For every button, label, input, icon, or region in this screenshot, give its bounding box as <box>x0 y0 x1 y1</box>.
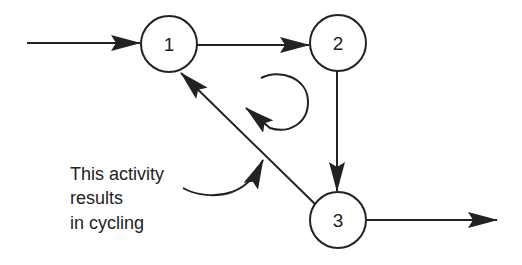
node-3: 3 <box>310 192 366 248</box>
node-1-label: 1 <box>164 34 175 55</box>
node-3-label: 3 <box>333 210 344 231</box>
annotation-line-3: in cycling <box>70 213 144 233</box>
cycle-loop-arrow-icon <box>246 74 308 130</box>
node-1: 1 <box>141 16 197 72</box>
annotation-text: This activity results in cycling <box>70 164 164 233</box>
activity-network-diagram: 1 2 3 This activity results in cycling <box>0 0 522 265</box>
node-2-label: 2 <box>333 33 344 54</box>
edge-3-to-1 <box>181 73 315 204</box>
annotation-line-1: This activity <box>70 164 164 184</box>
annotation-line-2: results <box>70 188 123 208</box>
node-2: 2 <box>310 15 366 71</box>
annotation-pointer-arrow <box>183 160 263 195</box>
